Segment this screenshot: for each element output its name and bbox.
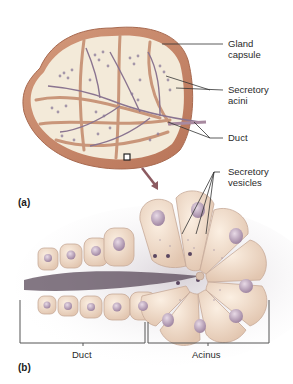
label-duct-a: Duct	[228, 132, 248, 143]
panel-label-b: (b)	[18, 362, 31, 373]
label-duct-b: Duct	[72, 349, 92, 360]
label-gland-capsule: Gland capsule	[228, 38, 261, 60]
magnification-arrow	[142, 168, 156, 186]
acinus-duct-detail	[15, 191, 293, 365]
label-gland-capsule-line2: capsule	[228, 49, 261, 60]
gland-lobule	[23, 27, 206, 190]
label-secretory-acini-line2: acini	[228, 95, 269, 106]
label-acinus: Acinus	[192, 349, 221, 360]
label-secretory-vesicles-line1: Secretory	[228, 166, 269, 177]
label-secretory-vesicles: Secretory vesicles	[228, 166, 269, 188]
label-gland-capsule-line1: Gland	[228, 38, 261, 49]
label-secretory-acini: Secretory acini	[228, 84, 269, 106]
label-secretory-vesicles-line2: vesicles	[228, 177, 269, 188]
label-secretory-acini-line1: Secretory	[228, 84, 269, 95]
panel-label-a: (a)	[18, 197, 30, 208]
magnified-region-box	[124, 154, 130, 160]
